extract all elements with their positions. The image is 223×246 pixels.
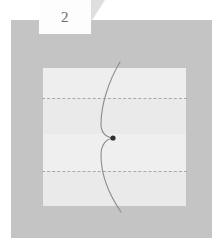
- figure-label-text: 2: [61, 10, 69, 25]
- reference-line-upper: [42, 98, 187, 99]
- label-fold-icon: [91, 0, 105, 22]
- figure-panel: 2: [0, 0, 223, 246]
- shading-band-0: [43, 68, 186, 98]
- shading-band-3: [43, 171, 186, 206]
- figure-label-tab: 2: [39, 0, 91, 34]
- plot-area: [43, 68, 186, 206]
- shading-band-1: [43, 98, 186, 134]
- reference-line-lower: [42, 171, 187, 172]
- shading-band-2: [43, 134, 186, 171]
